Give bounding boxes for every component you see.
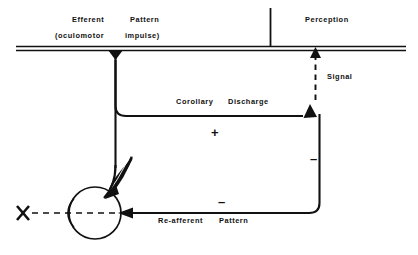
corollary-discharge-path <box>116 60 304 116</box>
sign-minus-right-limb: – <box>310 152 317 165</box>
target-x-marker <box>17 206 29 220</box>
label-corollary: Corollary <box>176 98 213 105</box>
label-re-afferent-pattern: Pattern <box>219 217 248 224</box>
comparator-arrowhead <box>304 104 318 118</box>
label-perception: Perception <box>305 16 349 23</box>
diagram-canvas: Efferent Pattern (oculomotor impulse) Pe… <box>0 0 418 255</box>
sign-plus-corollary: + <box>211 126 219 139</box>
sign-minus-re-afferent: – <box>218 195 225 208</box>
label-signal: Signal <box>327 73 352 80</box>
signal-arrowhead <box>310 47 321 58</box>
label-oculomotor: (oculomotor <box>55 32 104 39</box>
label-impulse: impulse) <box>125 32 160 39</box>
label-re-afferent: Re-afferent <box>158 217 203 224</box>
label-efferent: Efferent <box>72 16 104 23</box>
central-bar <box>16 47 406 51</box>
label-discharge: Discharge <box>228 98 269 105</box>
label-pattern: Pattern <box>130 16 159 23</box>
